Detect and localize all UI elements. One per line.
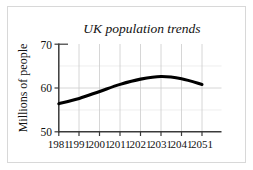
x-tick-label: 1991 [68,138,90,150]
x-tick-label: 2031 [150,138,172,150]
x-tick-labels: 1981 1991 2001 2011 2021 2031 2041 2051 [48,138,213,150]
chart-title: UK population trends [83,21,200,36]
y-tick-label: 50 [41,126,53,138]
y-tick-label: 60 [41,82,53,94]
x-tick-label: 2041 [171,138,193,150]
uk-population-trends-chart: UK population trends Millions of people … [0,0,253,170]
y-axis-label: Millions of people [16,44,30,133]
x-tick-label: 1981 [48,138,70,150]
y-tick-labels: 70 60 50 [41,39,53,139]
x-tick-label: 2051 [191,138,213,150]
x-tick-label: 2011 [109,138,131,150]
y-tick-label: 70 [41,39,53,51]
x-tick-label: 2001 [89,138,111,150]
x-tick-label: 2021 [130,138,152,150]
chart-figure: UK population trends Millions of people … [0,0,253,170]
